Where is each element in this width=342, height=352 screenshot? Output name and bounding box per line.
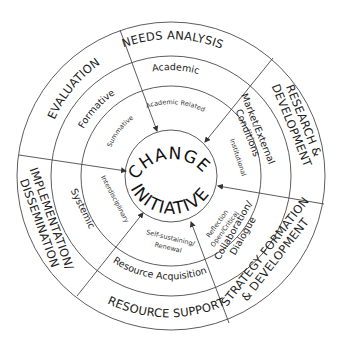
core-label-change: CHANGE	[124, 143, 215, 183]
label-research-development: RESEARCH & DEVELOPMENT	[269, 77, 327, 170]
change-initiative-diagram: CHANGE INITIATIVE NEEDS ANALYSIS EVALUAT…	[0, 0, 342, 352]
label-systemic: Systemic	[69, 187, 98, 231]
label-academic: Academic	[151, 61, 201, 76]
label-resource-support: RESOURCE SUPPORT	[106, 293, 228, 320]
svg-text:Systemic: Systemic	[69, 187, 98, 231]
label-needs-analysis: NEEDS ANALYSIS	[120, 28, 225, 52]
label-institutional: Institutional	[228, 138, 248, 177]
core-label-initiative: INITIATIVE	[127, 180, 213, 218]
svg-text:Interdisciplinary: Interdisciplinary	[99, 174, 131, 224]
label-formative: Formative	[76, 87, 117, 130]
label-resource-acquisition: Resource Acquisition	[111, 254, 207, 281]
label-academic-related: Academic Related	[145, 98, 206, 114]
label-summative: Summative	[105, 114, 134, 148]
svg-text:Institutional: Institutional	[228, 138, 248, 177]
label-interdisciplinary: Interdisciplinary	[99, 174, 131, 224]
label-self-sustaining-renewal: Self-sustaining/ Renewal	[143, 228, 196, 258]
